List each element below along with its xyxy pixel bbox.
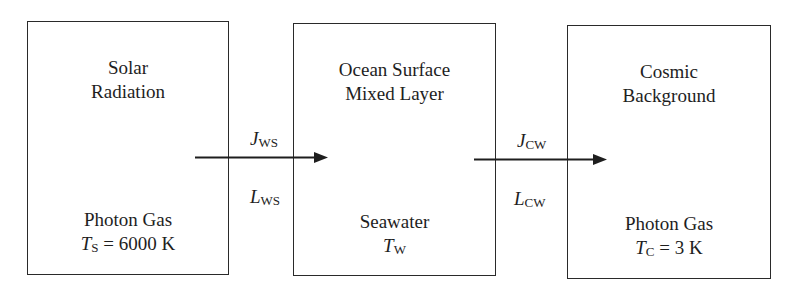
- arrow-solar-to-ocean-icon: [194, 150, 330, 166]
- entropy-flux-label-ws: LWS: [250, 186, 280, 210]
- title-line-1: Solar: [28, 56, 228, 80]
- entropy-flux-label-cw: LCW: [514, 188, 546, 212]
- flux-subscript: CW: [525, 137, 546, 152]
- flux-subscript: WS: [261, 193, 281, 208]
- flux-subscript: CW: [525, 195, 546, 210]
- temperature-label: TW: [294, 234, 495, 260]
- energy-flux-label-cw: JCW: [517, 130, 546, 154]
- temperature-label: TC = 3 K: [568, 236, 770, 262]
- box-title: Solar Radiation: [28, 56, 228, 104]
- title-line-1: Cosmic: [568, 60, 770, 84]
- substance-label: Photon Gas: [28, 208, 228, 232]
- arrow-ocean-to-cosmic-icon: [473, 152, 609, 168]
- flux-symbol: L: [514, 188, 525, 209]
- temp-value: = 3 K: [655, 237, 703, 258]
- temp-value: = 6000 K: [99, 233, 176, 254]
- flux-symbol: L: [250, 186, 261, 207]
- temp-symbol: T: [383, 235, 394, 256]
- energy-flux-label-ws: JWS: [250, 128, 278, 152]
- temp-symbol: T: [635, 237, 646, 258]
- temp-symbol: T: [81, 233, 92, 254]
- substance-label: Seawater: [294, 210, 495, 234]
- temp-subscript: W: [394, 242, 406, 257]
- temp-subscript: S: [91, 240, 98, 255]
- title-line-2: Background: [568, 84, 770, 108]
- substance-label: Photon Gas: [568, 212, 770, 236]
- title-line-1: Ocean Surface: [294, 58, 495, 82]
- title-line-2: Mixed Layer: [294, 82, 495, 106]
- temp-subscript: C: [646, 244, 655, 259]
- box-title: Cosmic Background: [568, 60, 770, 108]
- temperature-label: TS = 6000 K: [28, 232, 228, 258]
- solar-radiation-box: Solar Radiation Photon Gas TS = 6000 K: [27, 21, 229, 275]
- box-title: Ocean Surface Mixed Layer: [294, 58, 495, 106]
- flux-subscript: WS: [258, 135, 278, 150]
- title-line-2: Radiation: [28, 80, 228, 104]
